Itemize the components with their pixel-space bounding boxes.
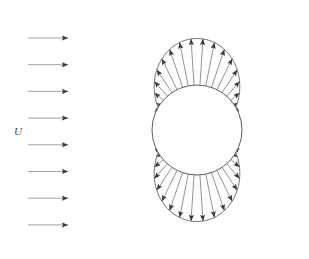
- pressure-arrow: [206, 174, 215, 217]
- pressure-arrow: [170, 173, 183, 211]
- pressure-arrow: [170, 49, 183, 87]
- pressure-distribution-diagram: [0, 0, 309, 259]
- pressure-arrow: [191, 39, 194, 85]
- pressure-arrow: [154, 81, 167, 96]
- cylinder-outline: [152, 85, 242, 175]
- pressure-arrow: [180, 174, 189, 217]
- pressure-arrow: [162, 59, 177, 90]
- figure-canvas: U: [0, 0, 309, 259]
- pressure-arrow: [157, 167, 172, 190]
- pressure-arrow: [162, 170, 177, 201]
- pressure-arrow: [180, 43, 189, 86]
- pressure-arrow: [157, 70, 172, 93]
- pressure-arrow: [154, 164, 167, 179]
- freestream-velocity-label: U: [14, 126, 22, 137]
- pressure-arrow: [200, 39, 203, 85]
- pressure-arrow: [217, 170, 232, 201]
- pressure-arrow: [227, 164, 240, 179]
- pressure-arrow: [227, 81, 240, 96]
- pressure-arrow: [222, 70, 237, 93]
- freestream-arrow-group: [28, 38, 68, 225]
- pressure-arrow: [211, 173, 224, 211]
- pressure-arrow: [191, 175, 194, 221]
- pressure-arrow: [206, 43, 215, 86]
- pressure-arrow: [200, 175, 203, 221]
- pressure-arrow: [217, 59, 232, 90]
- pressure-arrow: [222, 167, 237, 190]
- pressure-arrow: [211, 49, 224, 87]
